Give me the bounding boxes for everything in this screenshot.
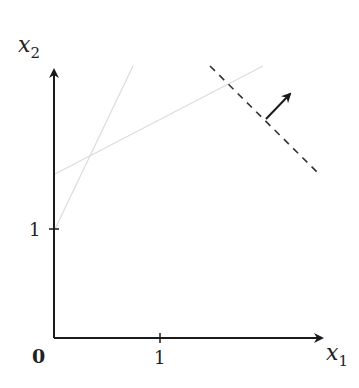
lp-diagram: x2 x1 0 1 1 [0,0,359,388]
origin-label: 0 [32,345,45,367]
y-tick-label: 1 [29,219,40,240]
constraint-line-1 [55,66,133,229]
objective-direction-arrow-icon [266,94,290,119]
constraint-line-2 [55,66,263,174]
x-axis-label: x1 [326,340,348,370]
objective-level-line [210,66,317,172]
y-axis-label: x2 [18,32,40,62]
x-tick-label: 1 [154,347,165,368]
